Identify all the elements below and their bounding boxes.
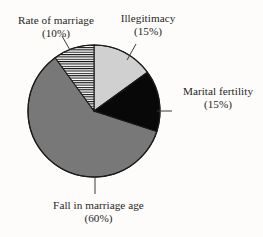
slice-label-rate-of-marriage-percent: (10%)	[2, 27, 110, 40]
slice-label-marital-fertility-name: Marital fertility	[183, 85, 253, 97]
pie-chart-figure: Rate of marriage (10%) Illegitimacy (15%…	[0, 0, 263, 237]
slice-label-fall-in-marriage-age-percent: (60%)	[33, 212, 164, 225]
slice-label-fall-in-marriage-age-name: Fall in marriage age	[53, 199, 144, 211]
slice-label-fall-in-marriage-age: Fall in marriage age (60%)	[33, 199, 164, 225]
slice-label-illegitimacy: Illegitimacy (15%)	[101, 12, 195, 38]
slice-label-marital-fertility: Marital fertility (15%)	[174, 85, 262, 111]
slice-label-rate-of-marriage-name: Rate of marriage	[18, 14, 94, 26]
slice-label-marital-fertility-percent: (15%)	[174, 98, 262, 111]
slice-label-rate-of-marriage: Rate of marriage (10%)	[2, 14, 110, 40]
slice-label-illegitimacy-percent: (15%)	[101, 25, 195, 38]
slice-label-illegitimacy-name: Illegitimacy	[121, 12, 176, 24]
